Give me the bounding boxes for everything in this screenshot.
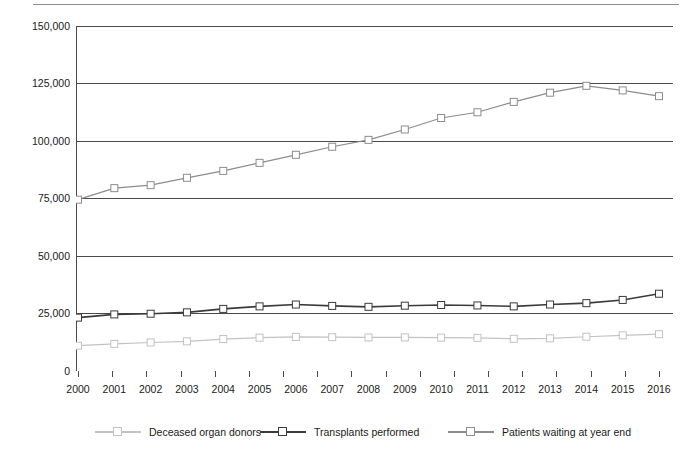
y-tick-label-0: 0: [0, 366, 70, 377]
data-point-marker: [547, 301, 554, 308]
data-point-marker: [474, 302, 481, 309]
x-axis-tick: [522, 371, 523, 377]
chart-legend: Deceased organ donorsTransplants perform…: [0, 424, 685, 444]
chart-container: 150,000 125,000 100,000 75,000 50,000 25…: [0, 0, 685, 453]
legend-label: Patients waiting at year end: [502, 427, 631, 438]
data-point-marker: [292, 151, 299, 158]
series-patients-waiting-at-year-end: [76, 82, 663, 203]
data-point-marker: [474, 109, 481, 116]
legend-square-marker-icon: [466, 427, 475, 436]
x-axis-tick: [386, 371, 387, 377]
data-point-marker: [111, 185, 118, 192]
series-deceased-organ-donors: [76, 331, 663, 350]
data-point-marker: [656, 331, 663, 338]
data-point-marker: [147, 182, 154, 189]
data-point-marker: [510, 303, 517, 310]
x-tick-label-2014: 2014: [575, 384, 598, 395]
data-point-marker: [147, 339, 154, 346]
x-tick-label-2002: 2002: [139, 384, 162, 395]
y-tick-label-25000: 25,000: [0, 308, 70, 319]
x-axis-tick: [556, 371, 557, 377]
top-cropped-text-left: [36, 0, 636, 2]
data-point-marker: [656, 93, 663, 100]
data-point-marker: [619, 332, 626, 339]
x-axis-tick: [420, 371, 421, 377]
data-point-marker: [76, 314, 82, 321]
data-point-marker: [547, 89, 554, 96]
data-point-marker: [256, 334, 263, 341]
x-tick-label-2013: 2013: [538, 384, 561, 395]
data-point-marker: [438, 334, 445, 341]
x-axis-tick: [659, 371, 660, 377]
data-point-marker: [256, 159, 263, 166]
x-axis-tick: [454, 371, 455, 377]
y-tick-label-150000: 150,000: [0, 21, 70, 32]
data-point-marker: [292, 333, 299, 340]
legend-square-marker-icon: [278, 427, 287, 436]
data-point-marker: [329, 302, 336, 309]
x-axis-tick: [351, 371, 352, 377]
y-tick-label-100000: 100,000: [0, 136, 70, 147]
data-point-marker: [220, 336, 227, 343]
data-point-marker: [329, 334, 336, 341]
x-tick-label-2007: 2007: [321, 384, 344, 395]
data-point-marker: [619, 296, 626, 303]
legend-item-transplants-performed[interactable]: Transplants performed: [260, 424, 419, 440]
x-tick-label-2008: 2008: [357, 384, 380, 395]
x-axis-tick: [625, 371, 626, 377]
data-point-marker: [656, 290, 663, 297]
plot-area: [76, 26, 673, 371]
x-tick-label-2006: 2006: [284, 384, 307, 395]
data-point-marker: [220, 167, 227, 174]
x-axis-labels: 2000200120022003200420052006200720082009…: [76, 384, 673, 400]
data-point-marker: [292, 301, 299, 308]
data-point-marker: [365, 334, 372, 341]
data-point-marker: [111, 340, 118, 347]
y-axis-labels: 150,000 125,000 100,000 75,000 50,000 25…: [0, 0, 70, 400]
x-tick-label-2005: 2005: [248, 384, 271, 395]
data-point-marker: [438, 301, 445, 308]
data-point-marker: [401, 126, 408, 133]
data-point-marker: [583, 300, 590, 307]
data-point-marker: [510, 98, 517, 105]
legend-swatch: [448, 426, 494, 438]
x-tick-label-2016: 2016: [647, 384, 670, 395]
data-point-marker: [329, 143, 336, 150]
y-tick-label-50000: 50,000: [0, 251, 70, 262]
x-tick-label-2000: 2000: [66, 384, 89, 395]
legend-item-deceased-organ-donors[interactable]: Deceased organ donors: [95, 424, 261, 440]
top-divider-rule: [33, 4, 679, 5]
x-tick-label-2001: 2001: [103, 384, 126, 395]
x-tick-label-2004: 2004: [212, 384, 235, 395]
x-axis-tick: [488, 371, 489, 377]
data-point-marker: [183, 309, 190, 316]
x-tick-label-2009: 2009: [393, 384, 416, 395]
series-transplants-performed: [76, 290, 663, 321]
x-axis-tick: [112, 371, 113, 377]
legend-item-patients-waiting-at-year-end[interactable]: Patients waiting at year end: [448, 424, 631, 440]
data-point-marker: [438, 115, 445, 122]
legend-square-marker-icon: [113, 427, 122, 436]
data-point-marker: [256, 303, 263, 310]
x-axis-tick: [146, 371, 147, 377]
data-point-marker: [510, 335, 517, 342]
x-axis-tick: [249, 371, 250, 377]
x-axis-tick: [181, 371, 182, 377]
data-point-marker: [76, 342, 82, 349]
data-point-marker: [401, 334, 408, 341]
x-axis-tick: [317, 371, 318, 377]
x-tick-label-2003: 2003: [175, 384, 198, 395]
data-point-marker: [183, 174, 190, 181]
data-point-marker: [220, 305, 227, 312]
plot-svg: [76, 26, 673, 371]
x-axis-tick: [78, 371, 79, 377]
data-point-marker: [111, 311, 118, 318]
legend-swatch: [95, 426, 141, 438]
data-point-marker: [365, 303, 372, 310]
y-tick-label-125000: 125,000: [0, 78, 70, 89]
legend-label: Deceased organ donors: [149, 427, 261, 438]
x-axis-tick: [215, 371, 216, 377]
data-point-marker: [547, 335, 554, 342]
data-point-marker: [183, 338, 190, 345]
x-tick-label-2015: 2015: [611, 384, 634, 395]
